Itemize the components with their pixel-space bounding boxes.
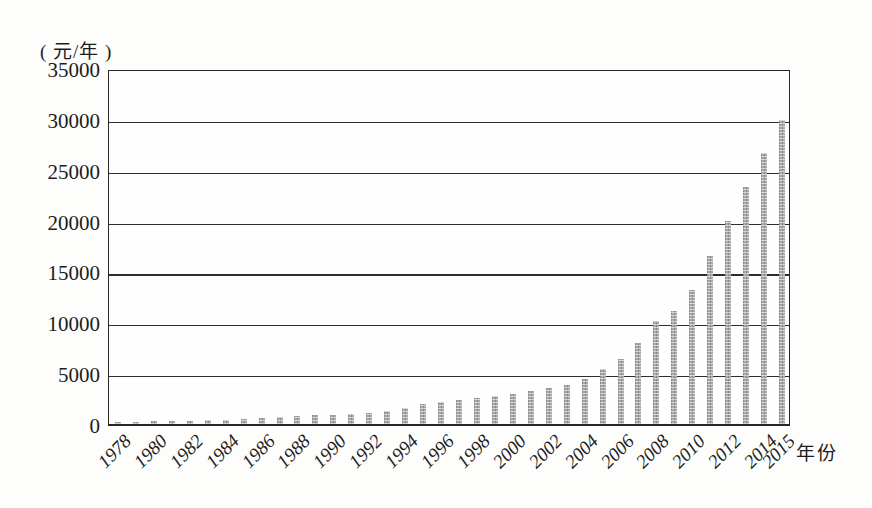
- x-tick-label-1982: 1982: [166, 431, 206, 471]
- bar-1980: [151, 421, 157, 424]
- bar-2013: [743, 187, 749, 424]
- x-tick-label-1992: 1992: [345, 431, 385, 471]
- bar-2015: [779, 120, 785, 424]
- y-tick-label-35000: 35000: [0, 60, 100, 81]
- bar-1995: [420, 404, 426, 424]
- bar-1982: [187, 421, 193, 424]
- bar-1998: [474, 398, 480, 424]
- gridline-20000: [109, 224, 789, 225]
- y-tick-label-10000: 10000: [0, 314, 100, 335]
- bar-1987: [277, 417, 283, 424]
- bar-2002: [546, 388, 552, 424]
- x-tick-label-1984: 1984: [202, 431, 242, 471]
- y-tick-label-5000: 5000: [0, 365, 100, 386]
- bar-1994: [402, 408, 408, 424]
- bar-2007: [635, 343, 641, 424]
- bar-1999: [492, 396, 498, 424]
- x-tick-label-2006: 2006: [597, 431, 637, 471]
- x-tick-label-1998: 1998: [453, 431, 493, 471]
- scanned-bar-chart-page: ( 元/年 ) 05000100001500020000250003000035…: [0, 0, 872, 508]
- bar-2011: [707, 256, 713, 424]
- bar-2006: [618, 359, 624, 424]
- gridline-25000: [109, 173, 789, 174]
- x-tick-label-1980: 1980: [130, 431, 170, 471]
- x-tick-label-2012: 2012: [704, 431, 744, 471]
- x-tick-label-2008: 2008: [633, 431, 673, 471]
- x-tick-label-1990: 1990: [309, 431, 349, 471]
- bar-1985: [241, 419, 247, 424]
- bar-2012: [725, 221, 731, 424]
- bar-1986: [259, 418, 265, 424]
- bar-1989: [312, 415, 318, 424]
- bar-2001: [528, 391, 534, 424]
- bar-2004: [582, 379, 588, 424]
- bar-1981: [169, 421, 175, 424]
- x-tick-label-2004: 2004: [561, 431, 601, 471]
- bar-1979: [133, 422, 139, 424]
- x-tick-label-1996: 1996: [417, 431, 457, 471]
- y-tick-label-25000: 25000: [0, 161, 100, 182]
- bar-1993: [384, 411, 390, 424]
- y-tick-label-0: 0: [0, 416, 100, 437]
- bar-1983: [205, 420, 211, 424]
- y-tick-label-30000: 30000: [0, 110, 100, 131]
- bar-1991: [348, 414, 354, 424]
- bar-1992: [366, 413, 372, 424]
- bar-2009: [671, 311, 677, 424]
- gridline-5000: [109, 376, 789, 377]
- bar-1990: [330, 415, 336, 424]
- bar-2000: [510, 394, 516, 425]
- bar-2008: [653, 321, 659, 424]
- bar-2003: [564, 385, 570, 424]
- bar-2010: [689, 290, 695, 424]
- x-tick-label-1986: 1986: [238, 431, 278, 471]
- bar-2005: [600, 369, 606, 424]
- x-tick-label-1978: 1978: [94, 431, 134, 471]
- plot-area: [108, 70, 790, 426]
- bar-1978: [115, 422, 121, 424]
- x-tick-label-2010: 2010: [668, 431, 708, 471]
- x-tick-label-2000: 2000: [489, 431, 529, 471]
- bar-1984: [223, 420, 229, 424]
- bar-1997: [456, 400, 462, 424]
- gridline-30000: [109, 122, 789, 123]
- gridline-15000: [109, 274, 789, 275]
- y-tick-label-15000: 15000: [0, 263, 100, 284]
- gridline-10000: [109, 325, 789, 326]
- bar-2014: [761, 153, 767, 424]
- x-tick-label-1988: 1988: [274, 431, 314, 471]
- bar-1996: [438, 402, 444, 424]
- bar-1988: [294, 416, 300, 424]
- x-tick-label-1994: 1994: [381, 431, 421, 471]
- x-tick-label-2002: 2002: [525, 431, 565, 471]
- y-tick-label-20000: 20000: [0, 212, 100, 233]
- x-axis-title: 年份: [796, 438, 838, 465]
